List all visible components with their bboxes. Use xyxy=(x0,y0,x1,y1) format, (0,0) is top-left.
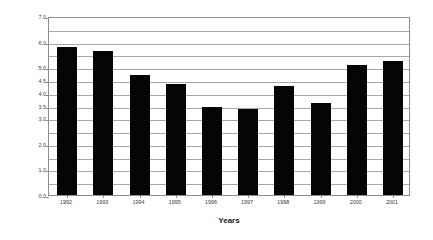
x-axis-title: Years xyxy=(48,216,410,225)
x-tickmark xyxy=(284,195,285,198)
y-tickmark xyxy=(46,95,49,96)
y-tick-label: 2.0 xyxy=(24,142,46,148)
plot-area xyxy=(48,17,410,196)
bar xyxy=(93,51,113,195)
y-tick-label: 4.5 xyxy=(24,78,46,84)
x-tick-label: 1995 xyxy=(155,199,195,205)
y-tickmark xyxy=(46,171,49,172)
x-tick-label: 1994 xyxy=(119,199,159,205)
x-tick-label: 1996 xyxy=(191,199,231,205)
y-tickmark xyxy=(46,197,49,198)
bars-layer xyxy=(49,18,409,195)
x-tickmark xyxy=(176,195,177,198)
x-tickmark xyxy=(140,195,141,198)
bar xyxy=(166,84,186,195)
bar xyxy=(383,61,403,195)
y-tick-label: 3.0 xyxy=(24,116,46,122)
y-tick-label: 3.5 xyxy=(24,104,46,110)
x-tick-label: 1998 xyxy=(263,199,303,205)
bar xyxy=(347,65,367,195)
y-tickmark xyxy=(46,69,49,70)
y-tickmark xyxy=(46,146,49,147)
x-tick-label: 2001 xyxy=(372,199,412,205)
bar xyxy=(130,75,150,195)
bar-chart-figure: kWh/US$ 0.01.02.03.03.54.04.55.06.07.0 1… xyxy=(0,0,433,240)
bar xyxy=(274,86,294,195)
x-tick-label: 1999 xyxy=(300,199,340,205)
x-tickmark xyxy=(67,195,68,198)
y-tick-label: 1.0 xyxy=(24,167,46,173)
x-tickmark xyxy=(321,195,322,198)
x-tick-label: 1992 xyxy=(46,199,86,205)
y-tickmark xyxy=(46,82,49,83)
y-tickmark xyxy=(46,120,49,121)
y-tickmark xyxy=(46,108,49,109)
x-tick-label: 1993 xyxy=(82,199,122,205)
x-tick-label: 1997 xyxy=(227,199,267,205)
y-tick-label: 6.0 xyxy=(24,40,46,46)
bar xyxy=(238,109,258,195)
x-tickmark xyxy=(212,195,213,198)
y-tickmark xyxy=(46,44,49,45)
y-tick-label: 5.0 xyxy=(24,65,46,71)
x-axis-tick-labels: 1992199319941995199619971998199920002001 xyxy=(48,199,410,211)
y-axis-tick-labels: 0.01.02.03.03.54.04.55.06.07.0 xyxy=(24,17,46,196)
x-tickmark xyxy=(248,195,249,198)
y-tick-label: 4.0 xyxy=(24,91,46,97)
bar xyxy=(57,47,77,195)
x-tickmark xyxy=(357,195,358,198)
x-tickmark xyxy=(103,195,104,198)
x-tickmark xyxy=(393,195,394,198)
y-tick-label: 7.0 xyxy=(24,14,46,20)
x-tick-label: 2000 xyxy=(336,199,376,205)
y-tickmark xyxy=(46,18,49,19)
bar xyxy=(311,103,331,195)
y-tick-label: 0.0 xyxy=(24,193,46,199)
bar xyxy=(202,107,222,195)
